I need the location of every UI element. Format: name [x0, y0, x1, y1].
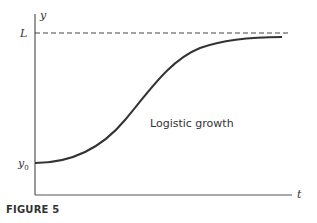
y0-subscript: 0 [24, 164, 28, 172]
figure-caption: FIGURE 5 [6, 205, 59, 215]
logistic-curve [35, 37, 282, 163]
y0-label: y0 [18, 158, 29, 172]
chart-canvas [0, 0, 317, 223]
t-axis-label: t [297, 189, 301, 200]
y-axis-label: y [40, 10, 46, 21]
curve-annotation: Logistic growth [150, 118, 234, 129]
L-label: L [20, 28, 27, 39]
